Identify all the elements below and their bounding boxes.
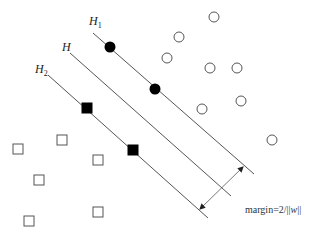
open-square-point [93, 155, 103, 165]
hyperplanes [48, 33, 254, 218]
open-circle-point [236, 96, 246, 106]
margin-arrow-line [200, 167, 243, 209]
margin-arrow [200, 167, 243, 209]
open-square-point [13, 144, 23, 154]
hyperplane-h [70, 53, 231, 196]
h2-label: H2 [34, 62, 48, 78]
open-square-point [57, 135, 67, 145]
hyperplane-h1 [93, 33, 254, 174]
open-circle-point [232, 63, 242, 73]
open-circle-point [267, 135, 277, 145]
h-label: H [61, 40, 72, 54]
support-vector-square [128, 145, 139, 156]
labels: H1 H H2 margin=2/||w|| [34, 14, 301, 215]
open-circle-point [162, 53, 172, 63]
open-square-point [34, 175, 44, 185]
h1-label: H1 [88, 14, 102, 30]
support-vector-circle [105, 42, 116, 53]
open-circle-point [205, 63, 215, 73]
open-square-point [24, 216, 34, 226]
open-square-point [93, 207, 103, 217]
support-vector-square [82, 103, 93, 114]
support-vector-circle [150, 84, 161, 95]
open-circle-point [209, 12, 219, 22]
svm-diagram: H1 H H2 margin=2/||w|| [0, 0, 319, 237]
open-circle-point [197, 104, 207, 114]
open-circle-point [174, 32, 184, 42]
margin-label: margin=2/||w|| [245, 204, 301, 215]
